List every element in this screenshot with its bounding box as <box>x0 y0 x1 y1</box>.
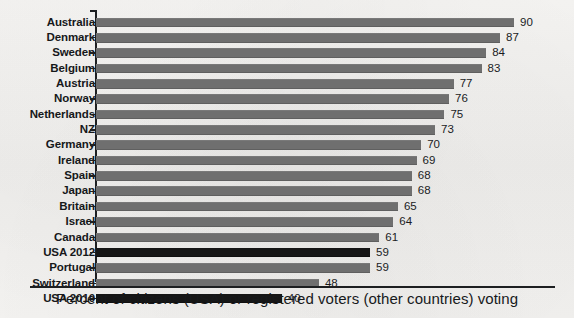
bar <box>96 140 421 150</box>
bar-row: USA 201259 <box>0 245 574 260</box>
bar-row: Canada61 <box>0 230 574 245</box>
bar-value-label: 68 <box>418 168 431 183</box>
bar-value-label: 48 <box>325 276 338 291</box>
bar-row: Netherlands75 <box>0 107 574 122</box>
bar-value-label: 65 <box>404 199 417 214</box>
bar-value-label: 64 <box>399 214 412 229</box>
bar-value-label: 87 <box>506 30 519 45</box>
category-label: Denmark <box>3 30 95 45</box>
category-label: Netherlands <box>3 107 95 122</box>
category-label: NZ <box>3 122 95 137</box>
bar <box>96 156 417 166</box>
category-label: Japan <box>3 183 95 198</box>
bar-row: Belgium83 <box>0 61 574 76</box>
category-label: Germany <box>3 137 95 152</box>
bar-highlighted <box>96 248 370 258</box>
bar-value-label: 59 <box>376 260 389 275</box>
bar <box>96 171 412 181</box>
category-label: Norway <box>3 91 95 106</box>
bar-value-label: 84 <box>492 45 505 60</box>
bar-value-label: 59 <box>376 245 389 260</box>
bar-row: Britain65 <box>0 199 574 214</box>
bar-value-label: 76 <box>455 91 468 106</box>
category-label: Spain <box>3 168 95 183</box>
category-label: Ireland <box>3 153 95 168</box>
bar-chart-figure: Australia90Denmark87Sweden84Belgium83Aus… <box>0 0 574 318</box>
category-label: Israel <box>3 214 95 229</box>
bar <box>96 79 454 89</box>
bar <box>96 217 393 227</box>
bar-value-label: 73 <box>441 122 454 137</box>
bar <box>96 125 435 135</box>
bar-row: Denmark87 <box>0 30 574 45</box>
category-label: Switzerland <box>3 276 95 291</box>
category-label: Belgium <box>3 61 95 76</box>
bar-row: Spain68 <box>0 168 574 183</box>
bar-value-label: 77 <box>460 76 473 91</box>
category-label: Canada <box>3 230 95 245</box>
bar <box>96 263 370 273</box>
category-label: Sweden <box>3 45 95 60</box>
bar-value-label: 70 <box>427 137 440 152</box>
category-label: Britain <box>3 199 95 214</box>
bar <box>96 18 514 28</box>
bar-row: Switzerland48 <box>0 276 574 291</box>
bar <box>96 110 444 120</box>
bar-row: Portugal59 <box>0 260 574 275</box>
bar-row: Sweden84 <box>0 45 574 60</box>
bar-row: Germany70 <box>0 137 574 152</box>
bar-row: Austria77 <box>0 76 574 91</box>
bar-value-label: 90 <box>520 15 533 30</box>
category-label: Austria <box>3 76 95 91</box>
bar-row: Australia90 <box>0 15 574 30</box>
bar-row: Japan68 <box>0 183 574 198</box>
baseline-rule <box>30 286 555 288</box>
bar-value-label: 83 <box>488 61 501 76</box>
bar <box>96 48 486 58</box>
chart-caption: Percent of citizens (USA) or registered … <box>0 290 574 307</box>
category-label: Portugal <box>3 260 95 275</box>
bar <box>96 233 379 243</box>
bar <box>96 202 398 212</box>
bar-row: Norway76 <box>0 91 574 106</box>
bar <box>96 186 412 196</box>
bar <box>96 94 449 104</box>
bar-value-label: 69 <box>423 153 436 168</box>
category-label: USA 2012 <box>3 245 95 260</box>
bar <box>96 64 482 74</box>
plot-area: Australia90Denmark87Sweden84Belgium83Aus… <box>0 0 574 288</box>
bar-value-label: 68 <box>418 183 431 198</box>
bar <box>96 33 500 43</box>
bar-value-label: 75 <box>450 107 463 122</box>
bar-value-label: 61 <box>385 230 398 245</box>
bar-row: Ireland69 <box>0 153 574 168</box>
bar-row: NZ73 <box>0 122 574 137</box>
bar-row: Israel64 <box>0 214 574 229</box>
category-label: Australia <box>3 15 95 30</box>
